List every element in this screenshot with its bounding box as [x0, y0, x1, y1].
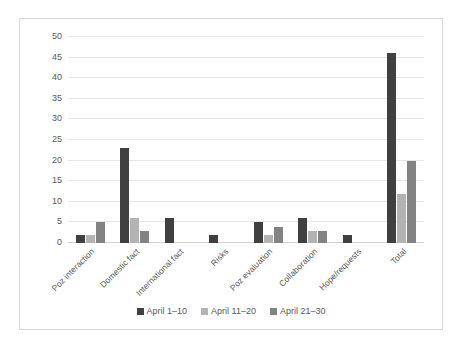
bar-group — [113, 37, 158, 243]
legend-item[interactable]: April 1–10 — [137, 307, 188, 316]
bar — [387, 53, 396, 243]
bar — [86, 235, 95, 243]
x-axis-label-slot: Hope/requests — [335, 245, 380, 307]
bar — [298, 218, 307, 243]
legend-item[interactable]: April 11–20 — [201, 307, 256, 316]
bar-series-layer — [68, 37, 424, 243]
bar — [274, 227, 283, 243]
plot-area: 50454035302520151050 — [68, 37, 424, 243]
legend-swatch-icon — [201, 308, 208, 315]
bar — [140, 231, 149, 243]
y-axis-tick-label: 35 — [52, 93, 62, 102]
bar — [343, 235, 352, 243]
y-axis-tick-label: 30 — [52, 114, 62, 123]
y-axis-tick-label: 10 — [52, 196, 62, 205]
bar-group — [202, 37, 247, 243]
bar-group — [291, 37, 336, 243]
y-axis-tick-label: 5 — [57, 217, 62, 226]
bar-group — [68, 37, 113, 243]
bar — [76, 235, 85, 243]
legend-label: April 1–10 — [147, 307, 188, 316]
x-axis-labels: Poz interactionDomestic factInternationa… — [68, 245, 424, 307]
y-axis-tick-label: 20 — [52, 155, 62, 164]
legend-swatch-icon — [137, 308, 144, 315]
bar-group — [380, 37, 425, 243]
y-axis-tick-label: 40 — [52, 73, 62, 82]
legend-label: April 21–30 — [280, 307, 326, 316]
y-axis-tick-label: 15 — [52, 176, 62, 185]
bar — [120, 148, 129, 243]
bar-group — [246, 37, 291, 243]
chart-legend: April 1–10April 11–20April 21–30 — [20, 307, 442, 316]
bar-group — [157, 37, 202, 243]
x-axis-tick-label: Total — [389, 247, 408, 266]
x-axis-label-slot: Total — [380, 245, 425, 307]
legend-label: April 11–20 — [211, 307, 256, 316]
bar — [318, 231, 327, 243]
bar — [397, 194, 406, 243]
legend-item[interactable]: April 21–30 — [270, 307, 326, 316]
y-axis-tick-label: 50 — [52, 32, 62, 41]
bar — [407, 161, 416, 243]
bar-group — [335, 37, 380, 243]
legend-swatch-icon — [270, 308, 277, 315]
bar — [254, 222, 263, 243]
chart-plot-frame: 50454035302520151050 Poz interactionDome… — [19, 18, 443, 330]
x-axis-tick-label: Risks — [209, 247, 230, 268]
chart-container: 50454035302520151050 Poz interactionDome… — [0, 0, 464, 348]
bar — [209, 235, 218, 243]
bar — [308, 231, 317, 243]
bar — [264, 235, 273, 243]
y-axis-tick-label: 25 — [52, 135, 62, 144]
y-axis-tick-label: 45 — [52, 52, 62, 61]
bar — [165, 218, 174, 243]
bar — [130, 218, 139, 243]
x-axis-label-slot: International fact — [157, 245, 202, 307]
x-axis-tick-label: Poz interaction — [50, 247, 96, 293]
y-axis-tick-label: 0 — [57, 238, 62, 247]
bar — [96, 222, 105, 243]
